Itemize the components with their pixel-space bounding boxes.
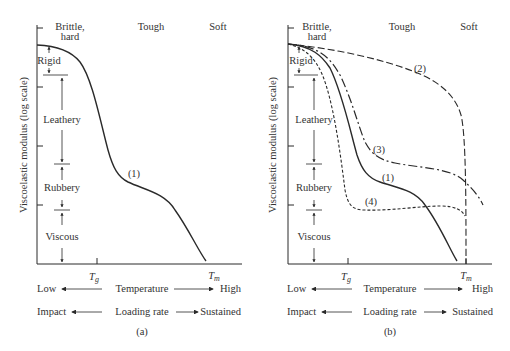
curve-label-1: (1) — [128, 168, 141, 180]
region-rubbery: Rubbery — [296, 182, 333, 193]
region-viscous: Viscous — [297, 231, 330, 242]
tm-label: Tm — [208, 270, 220, 283]
soft-label: Soft — [460, 21, 478, 32]
tm-label: Tm — [460, 270, 472, 283]
hard-label: hard — [61, 31, 80, 42]
region-leathery: Leathery — [295, 114, 333, 125]
temp-high: High — [472, 283, 494, 294]
figure: Viscoelastic modulus (log scale) Brittle… — [0, 0, 510, 351]
loading-low: Impact — [37, 306, 66, 317]
region-leathery: Leathery — [43, 114, 81, 125]
curve-label-3: (3) — [373, 144, 386, 156]
region-rigid: Rigid — [37, 55, 61, 66]
caption-a: (a) — [136, 326, 148, 338]
region-rigid: Rigid — [289, 55, 313, 66]
y-axis-label: Viscoelastic modulus (log scale) — [267, 76, 279, 213]
loading-high: Sustained — [200, 306, 242, 317]
loading-label: Loading rate — [115, 306, 169, 317]
temp-low: Low — [287, 283, 307, 294]
loading-low: Impact — [287, 306, 316, 317]
soft-label: Soft — [209, 21, 227, 32]
caption-b: (b) — [384, 326, 397, 338]
tg-label: Tg — [89, 271, 99, 284]
curve-label-4: (4) — [365, 196, 378, 208]
tg-label: Tg — [341, 271, 351, 284]
temp-label: Temperature — [116, 283, 169, 294]
y-axis-label: Viscoelastic modulus (log scale) — [18, 76, 30, 213]
loading-label: Loading rate — [363, 306, 417, 317]
tough-label: Tough — [389, 21, 416, 32]
curve-label-1: (1) — [382, 172, 395, 184]
hard-label: hard — [308, 31, 327, 42]
loading-high: Sustained — [452, 306, 494, 317]
curve-label-2: (2) — [414, 63, 427, 75]
panel-a: Viscoelastic modulus (log scale) Brittle… — [18, 21, 242, 338]
region-rubbery: Rubbery — [44, 182, 81, 193]
temp-label: Temperature — [364, 283, 417, 294]
temp-high: High — [220, 283, 242, 294]
region-viscous: Viscous — [45, 231, 78, 242]
tough-label: Tough — [138, 21, 165, 32]
temp-low: Low — [37, 283, 57, 294]
panel-b: Viscoelastic modulus (log scale) Brittle… — [267, 21, 494, 338]
